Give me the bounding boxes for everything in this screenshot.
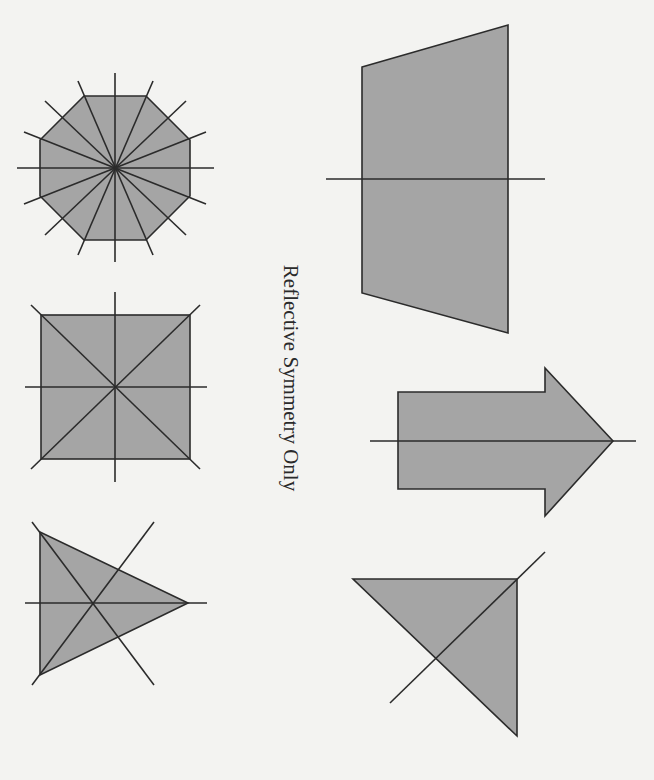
trapezoid-figure (326, 25, 545, 333)
square-figure (25, 292, 207, 482)
right-triangle-figure (353, 552, 545, 736)
caption-reflective-symmetry-only: Reflective Symmetry Only (278, 265, 303, 491)
octagon-symmetry-lines (17, 73, 214, 262)
arrow-figure (370, 368, 636, 516)
symmetry-diagram (0, 0, 654, 780)
equilateral-triangle-figure (25, 522, 207, 685)
octagon-figure (17, 73, 214, 262)
arrow-shape (398, 368, 613, 516)
